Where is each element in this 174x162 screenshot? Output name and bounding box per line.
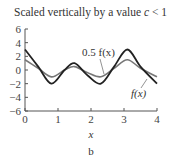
y-tick-label: −6 — [9, 105, 21, 117]
x-tick-label: 2 — [88, 113, 94, 125]
x-tick-label: 3 — [121, 113, 127, 125]
y-tick-label: 4 — [16, 37, 22, 49]
y-tick-label: −2 — [9, 78, 21, 90]
x-tick-label: 1 — [55, 113, 61, 125]
annotation-half-f: 0.5 f(x) — [82, 46, 115, 59]
y-tick-label: 0 — [16, 64, 22, 76]
y-tick-label: 6 — [16, 23, 22, 35]
y-tick-label: −4 — [9, 91, 21, 103]
panel-label: b — [88, 145, 94, 157]
annotation-f: f(x) — [131, 87, 147, 100]
line-chart: 6420−2−4−601234xb0.5 f(x)f(x) — [0, 0, 174, 162]
annotation-half-f-leader — [100, 59, 104, 74]
y-tick-label: 2 — [16, 50, 22, 62]
x-tick-label: 4 — [154, 113, 160, 125]
x-tick-label: 0 — [22, 113, 28, 125]
x-axis-label: x — [88, 128, 94, 140]
